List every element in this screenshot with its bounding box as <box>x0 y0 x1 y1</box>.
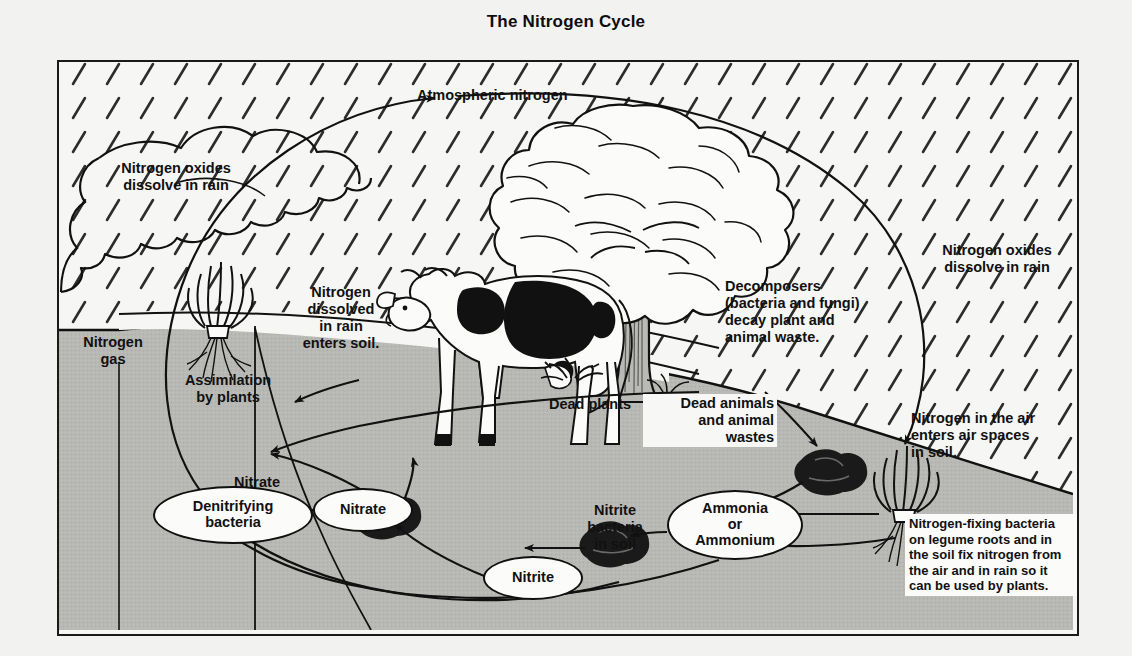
node-denitrifying-bacteria[interactable]: Denitrifying bacteria <box>153 486 313 544</box>
label-nitrite-bacteria-in-soil: Nitrite bacteria in soil <box>565 502 665 553</box>
label-dead-plants: Dead plants <box>525 396 655 413</box>
label-nitrogen-dissolved-rain: Nitrogen dissolved in rain enters soil. <box>281 284 401 352</box>
label-assimilation-by-plants: Assimilation by plants <box>153 372 303 406</box>
diagram-frame: Atmospheric nitrogen Nitrogen oxides dis… <box>57 60 1079 636</box>
label-decomposers: Decomposers (bacteria and fungi) decay p… <box>725 278 935 346</box>
node-nitrite[interactable]: Nitrite <box>483 556 583 600</box>
label-nitrogen-oxides-left: Nitrogen oxides dissolve in rain <box>81 160 271 194</box>
node-ammonia-or-ammonium[interactable]: Ammonia or Ammonium <box>667 490 803 560</box>
label-nitrogen-in-air-spaces: Nitrogen in the air enters air spaces in… <box>911 410 1079 461</box>
label-atmospheric-nitrogen: Atmospheric nitrogen <box>417 87 568 104</box>
page-title: The Nitrogen Cycle <box>0 12 1132 32</box>
label-dead-animals-and-wastes: Dead animals and animal wastes <box>643 394 777 447</box>
diagram-stage: The Nitrogen Cycle <box>0 0 1132 656</box>
label-nitrogen-gas: Nitrogen gas <box>63 334 163 368</box>
note-nitrogen-fixing-bacteria: Nitrogen-fixing bacteria on legume roots… <box>905 514 1079 596</box>
node-nitrate[interactable]: Nitrate <box>313 488 413 532</box>
label-nitrogen-oxides-right: Nitrogen oxides dissolve in rain <box>897 242 1079 276</box>
